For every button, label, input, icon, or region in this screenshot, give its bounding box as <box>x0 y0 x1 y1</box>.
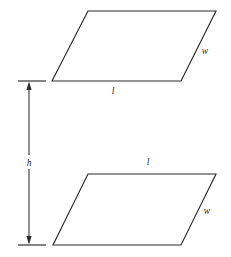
height-arrow-up-icon <box>26 82 31 91</box>
height-arrow-down-icon <box>26 236 31 245</box>
figure-canvas: h l w l w <box>0 0 231 257</box>
bottom-width-label: w <box>204 206 211 216</box>
top-parallelogram <box>52 11 216 81</box>
bottom-parallelogram <box>53 174 216 245</box>
top-length-label: l <box>112 86 115 96</box>
geometry-figure: h l w l w <box>0 0 231 257</box>
height-label: h <box>27 158 32 168</box>
bottom-length-label: l <box>147 157 150 167</box>
top-width-label: w <box>202 46 209 56</box>
